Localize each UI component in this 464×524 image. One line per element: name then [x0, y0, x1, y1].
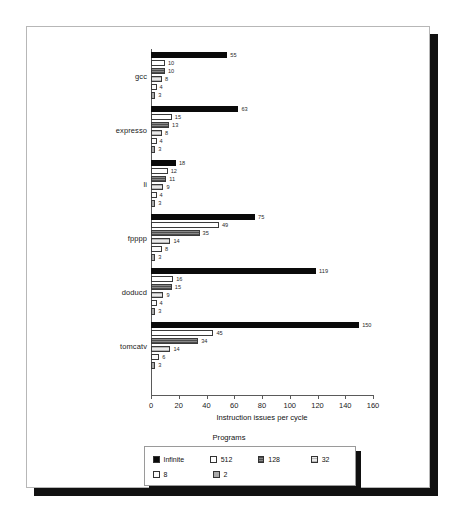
bar	[151, 176, 166, 183]
bar	[151, 354, 159, 361]
bar-row: 10	[151, 59, 431, 67]
bar-value-label: 45	[216, 329, 222, 337]
bar-groups: gcc551010843expresso631513843li181211943…	[27, 49, 431, 373]
bar	[151, 308, 155, 315]
bar-value-label: 3	[158, 199, 161, 207]
bar-value-label: 49	[222, 221, 228, 229]
axis-tick-label: 120	[311, 401, 324, 410]
bar	[151, 92, 155, 99]
bar	[151, 52, 227, 59]
axis-tick	[345, 395, 346, 399]
category-label: li	[143, 180, 147, 189]
bar	[151, 246, 162, 253]
bar-row: 8	[151, 129, 431, 137]
bar	[151, 284, 172, 291]
legend-swatch-icon	[153, 471, 160, 478]
legend-item[interactable]: 8	[153, 471, 211, 478]
axis-tick	[234, 395, 235, 399]
category-label: doducd	[122, 288, 147, 297]
bar	[151, 292, 163, 299]
bar-stack: 551010843	[151, 51, 431, 101]
bar	[151, 122, 169, 129]
bar	[151, 362, 155, 369]
bar	[151, 254, 155, 261]
bar	[151, 130, 162, 137]
legend-row: 82	[153, 467, 355, 482]
bar-stack: 1191615943	[151, 267, 431, 317]
legend-item[interactable]: 512	[210, 456, 256, 463]
bar-value-label: 10	[168, 67, 174, 75]
legend-item[interactable]: 2	[213, 471, 261, 478]
legend-item[interactable]: 128	[258, 456, 309, 463]
bar-value-label: 35	[203, 229, 209, 237]
bar-value-label: 9	[166, 291, 169, 299]
axis-tick	[179, 395, 180, 399]
bar	[151, 84, 157, 91]
bar-row: 8	[151, 245, 431, 253]
axis-tick	[318, 395, 319, 399]
bar	[151, 238, 170, 245]
legend-label: Infinite	[164, 456, 185, 463]
bar-row: 13	[151, 121, 431, 129]
bar-row: 15	[151, 283, 431, 291]
bar-value-label: 3	[158, 307, 161, 315]
bar-row: 15	[151, 113, 431, 121]
bar-row: 14	[151, 345, 431, 353]
bar-row: 3	[151, 253, 431, 261]
bar	[151, 330, 213, 337]
bar-value-label: 3	[158, 91, 161, 99]
legend-row: Infinite51212832	[153, 452, 355, 467]
bar-group: fpppp7549351483	[27, 211, 431, 265]
legend-swatch-icon	[153, 456, 160, 463]
bar-row: 119	[151, 267, 431, 275]
axis-tick-label: 60	[230, 401, 238, 410]
bar	[151, 214, 255, 221]
bar-value-label: 4	[160, 191, 163, 199]
bar-row: 9	[151, 291, 431, 299]
bar-row: 35	[151, 229, 431, 237]
bar	[151, 300, 157, 307]
bar-group: tomcatv15045341463	[27, 319, 431, 373]
bar	[151, 114, 172, 121]
axis-tick-label: 20	[175, 401, 183, 410]
bar	[151, 106, 238, 113]
category-label: fpppp	[128, 234, 147, 243]
bar-value-label: 8	[165, 75, 168, 83]
bar-value-label: 10	[168, 59, 174, 67]
bar-value-label: 34	[201, 337, 207, 345]
bar-row: 18	[151, 159, 431, 167]
bar-row: 63	[151, 105, 431, 113]
legend-item[interactable]: Infinite	[153, 456, 208, 463]
bar-row: 3	[151, 91, 431, 99]
axis-tick	[373, 395, 374, 399]
bar-row: 6	[151, 353, 431, 361]
bar	[151, 184, 163, 191]
bar-value-label: 14	[173, 345, 179, 353]
bar-row: 4	[151, 191, 431, 199]
bar-row: 3	[151, 361, 431, 369]
bar-row: 11	[151, 175, 431, 183]
bar-stack: 7549351483	[151, 213, 431, 263]
axis-tick-label: 140	[339, 401, 352, 410]
bar	[151, 138, 157, 145]
bar-row: 4	[151, 137, 431, 145]
bar-value-label: 9	[166, 183, 169, 191]
axis-tick-label: 160	[367, 401, 380, 410]
category-label: tomcatv	[120, 342, 147, 351]
bar	[151, 68, 165, 75]
axis-tick-label: 100	[283, 401, 296, 410]
bar-value-label: 55	[230, 51, 236, 59]
bar-row: 34	[151, 337, 431, 345]
bar-value-label: 4	[160, 137, 163, 145]
legend-item[interactable]: 32	[311, 456, 353, 463]
legend-label: 128	[268, 456, 280, 463]
bar	[151, 76, 162, 83]
legend-swatch-icon	[311, 456, 318, 463]
bar-value-label: 3	[158, 145, 161, 153]
bar-value-label: 8	[165, 245, 168, 253]
bar-value-label: 150	[362, 321, 371, 329]
bar-value-label: 15	[175, 113, 181, 121]
bar-value-label: 3	[158, 361, 161, 369]
bar-group: expresso631513843	[27, 103, 431, 157]
bar-row: 8	[151, 75, 431, 83]
